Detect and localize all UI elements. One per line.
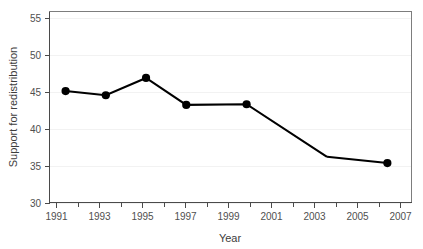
series-data-point bbox=[383, 159, 391, 167]
series-data-point bbox=[102, 91, 110, 99]
x-tick-label: 2001 bbox=[260, 211, 283, 222]
y-axis-title: Support for redistribution bbox=[7, 47, 19, 167]
y-tick-label: 35 bbox=[30, 161, 42, 172]
plot-panel-background bbox=[50, 12, 412, 203]
y-tick-label: 50 bbox=[30, 50, 42, 61]
y-tick-label: 30 bbox=[30, 198, 42, 209]
series-data-point bbox=[242, 100, 250, 108]
x-tick-label: 1993 bbox=[88, 211, 111, 222]
x-tick-label: 1999 bbox=[217, 211, 240, 222]
x-tick-label: 1997 bbox=[174, 211, 197, 222]
chart-figure: 55 50 45 40 35 30 bbox=[0, 0, 423, 249]
line-chart: 55 50 45 40 35 30 bbox=[0, 0, 423, 249]
y-tick-label: 45 bbox=[30, 87, 42, 98]
series-data-point bbox=[182, 101, 190, 109]
y-tick-label: 55 bbox=[30, 13, 42, 24]
series-data-point bbox=[61, 87, 69, 95]
y-axis-ticks bbox=[45, 19, 50, 204]
x-tick-label: 1995 bbox=[131, 211, 154, 222]
x-axis-title: Year bbox=[219, 232, 242, 244]
y-axis-tick-labels: 55 50 45 40 35 30 bbox=[30, 13, 42, 209]
x-tick-label: 1991 bbox=[45, 211, 68, 222]
x-tick-label: 2007 bbox=[389, 211, 412, 222]
x-tick-label: 2003 bbox=[303, 211, 326, 222]
x-tick-label: 2005 bbox=[346, 211, 369, 222]
x-axis-tick-labels: 1991 1993 1995 1997 1999 2001 2003 2005 … bbox=[45, 211, 412, 222]
y-tick-label: 40 bbox=[30, 124, 42, 135]
series-data-point bbox=[142, 74, 150, 82]
